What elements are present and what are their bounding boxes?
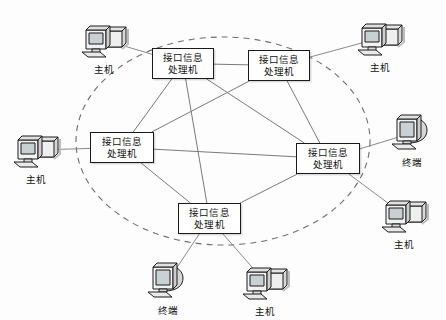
device-label: 主机: [374, 237, 434, 251]
imp-label-line1: 接口信息: [102, 136, 143, 147]
imp-node-imp-right[interactable]: 接口信息处理机: [296, 143, 360, 174]
imp-label-line2: 处理机: [194, 219, 225, 230]
trunk-link-imp-top-left-to-imp-right: [207, 79, 305, 143]
device-label: 终端: [138, 303, 198, 317]
imp-node-imp-top-right[interactable]: 接口信息处理机: [248, 50, 310, 81]
imp-label-line2: 处理机: [168, 64, 199, 75]
device-label: 主机: [350, 60, 410, 74]
imp-node-imp-left[interactable]: 接口信息处理机: [90, 132, 154, 163]
trunk-link-layer: [133, 64, 320, 203]
trunk-link-imp-top-right-to-imp-right: [287, 81, 320, 143]
trunk-link-imp-top-right-to-imp-left: [152, 81, 250, 132]
imp-node-imp-top-left[interactable]: 接口信息处理机: [152, 48, 214, 79]
trunk-link-imp-left-to-imp-bottom: [141, 163, 190, 203]
imp-label-line2: 处理机: [264, 66, 295, 77]
imp-label-line1: 接口信息: [259, 54, 300, 65]
imp-label-line1: 接口信息: [163, 52, 204, 63]
trunk-link-imp-left-to-imp-right: [154, 149, 296, 157]
imp-label-line1: 接口信息: [189, 207, 230, 218]
host-computer-icon: [378, 191, 430, 235]
host-computer-icon: [10, 126, 62, 170]
device-label: 主机: [235, 304, 295, 318]
imp-label-line1: 接口信息: [308, 147, 349, 158]
terminal-icon: [386, 109, 438, 153]
trunk-link-imp-top-left-to-imp-top-right: [214, 64, 248, 65]
host-computer-icon: [78, 16, 130, 60]
device-label: 主机: [74, 62, 134, 76]
imp-node-imp-bottom[interactable]: 接口信息处理机: [178, 203, 241, 234]
imp-label-line2: 处理机: [107, 148, 138, 159]
device-label: 终端: [382, 155, 442, 169]
host-computer-icon: [354, 14, 406, 58]
host-computer-icon: [239, 258, 291, 302]
trunk-link-imp-top-left-to-imp-bottom: [186, 79, 207, 203]
trunk-link-imp-bottom-to-imp-right: [240, 174, 297, 203]
device-label: 主机: [6, 172, 66, 186]
terminal-icon: [142, 257, 194, 301]
network-topology-diagram: 接口信息处理机接口信息处理机接口信息处理机接口信息处理机接口信息处理机 主机主机…: [0, 0, 446, 320]
imp-label-line2: 处理机: [313, 159, 344, 170]
